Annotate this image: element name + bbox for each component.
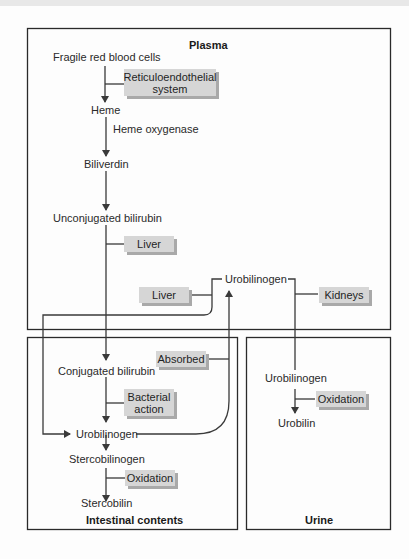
box-oxidation-urine: Oxidation (316, 391, 366, 407)
node-stercobilinogen: Stercobilinogen (69, 453, 145, 466)
node-unconjugated-bilirubin: Unconjugated bilirubin (53, 212, 162, 225)
node-urobilin: Urobilin (278, 417, 315, 430)
box-reticuloendothelial: Reticuloendothelial system (124, 69, 216, 96)
urine-region (247, 338, 391, 530)
node-fragile-rbc: Fragile red blood cells (53, 51, 161, 64)
node-conjugated-bilirubin: Conjugated bilirubin (58, 365, 155, 378)
box-bacterial-action: Bacterial action (124, 389, 174, 416)
node-biliverdin: Biliverdin (84, 158, 129, 171)
box-liver-2: Liver (139, 287, 189, 303)
label-heme-oxygenase: Heme oxygenase (113, 123, 199, 136)
plasma-heading: Plasma (189, 39, 228, 52)
box-oxidation-intestinal: Oxidation (125, 470, 175, 486)
node-urobilinogen-intestinal: Urobilinogen (76, 428, 138, 441)
node-urobilinogen-plasma: Urobilinogen (225, 273, 287, 286)
box-absorbed: Absorbed (156, 351, 206, 367)
node-heme: Heme (91, 104, 120, 117)
intestinal-heading: Intestinal contents (86, 514, 183, 527)
urine-heading: Urine (305, 514, 333, 527)
node-stercobilin: Stercobilin (81, 497, 132, 510)
box-kidneys: Kidneys (319, 287, 369, 303)
node-urobilinogen-urine: Urobilinogen (265, 372, 327, 385)
box-liver-1: Liver (124, 236, 174, 252)
